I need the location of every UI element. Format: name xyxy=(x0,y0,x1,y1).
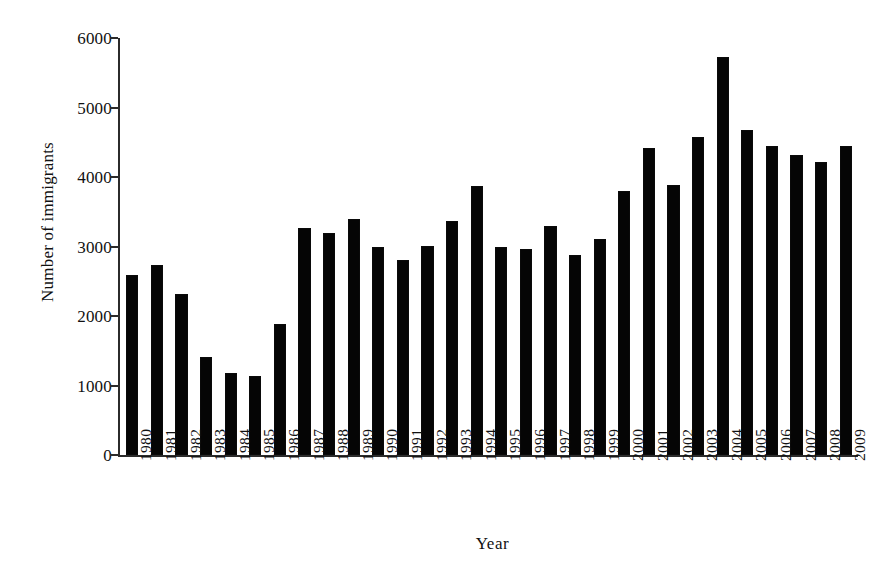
x-axis-tick-label: 1990 xyxy=(384,429,400,461)
x-axis-tick-label: 1982 xyxy=(188,429,204,461)
x-axis-tick-label: 1985 xyxy=(261,429,277,461)
bar xyxy=(569,255,581,455)
bar xyxy=(544,226,556,455)
x-axis-tick-label: 1981 xyxy=(163,429,179,461)
x-axis-tick-label: 1999 xyxy=(606,429,622,461)
x-axis-tick-label: 1993 xyxy=(458,429,474,461)
x-axis-tick-label: 1992 xyxy=(434,429,450,461)
bar xyxy=(471,186,483,455)
x-axis-tick-label: 1998 xyxy=(581,429,597,461)
bar-chart-figure: Number of immigrants 0100020003000400050… xyxy=(0,0,879,579)
x-axis-tick-label: 1980 xyxy=(138,429,154,461)
bar xyxy=(741,130,753,455)
x-axis-tick-label: 2001 xyxy=(655,429,671,461)
bar xyxy=(323,233,335,455)
x-axis-tick-label: 1995 xyxy=(507,429,523,461)
bar xyxy=(643,148,655,455)
x-axis-tick-label: 2007 xyxy=(803,429,819,461)
bar xyxy=(298,228,310,455)
x-axis-tick-label: 1996 xyxy=(532,429,548,461)
bar xyxy=(594,239,606,455)
x-axis-tick-label: 2005 xyxy=(753,429,769,461)
y-axis-tick-label: 5000 xyxy=(40,99,112,116)
bar xyxy=(348,219,360,455)
y-axis-tick-mark xyxy=(110,107,118,109)
bar xyxy=(520,249,532,455)
bar xyxy=(790,155,802,455)
y-axis-tick-mark xyxy=(110,385,118,387)
x-axis-tick-label: 2006 xyxy=(778,429,794,461)
bar xyxy=(151,265,163,455)
x-axis-tick-label: 2004 xyxy=(729,429,745,461)
bar-series xyxy=(120,38,858,455)
x-axis-title: Year xyxy=(0,534,879,554)
y-axis-tick-mark xyxy=(110,315,118,317)
y-axis-tick-label: 1000 xyxy=(40,377,112,394)
bar xyxy=(446,221,458,455)
x-axis-tick-label: 1983 xyxy=(212,429,228,461)
y-axis-tick-label: 0 xyxy=(40,447,112,464)
bar xyxy=(840,146,852,455)
x-axis-tick-label: 1989 xyxy=(360,429,376,461)
bar xyxy=(618,191,630,455)
bar xyxy=(126,275,138,455)
y-axis-tick-label: 2000 xyxy=(40,308,112,325)
bar xyxy=(815,162,827,455)
bar xyxy=(717,57,729,455)
y-axis-tick-label: 6000 xyxy=(40,30,112,47)
bar xyxy=(766,146,778,455)
plot-area xyxy=(118,38,858,455)
bar xyxy=(372,247,384,455)
x-axis-tick-label: 1984 xyxy=(237,429,253,461)
y-axis-tick-labels: 0100020003000400050006000 xyxy=(40,0,112,579)
bar xyxy=(421,246,433,455)
x-axis-tick-label: 2009 xyxy=(852,429,868,461)
bar xyxy=(667,185,679,455)
x-axis-tick-label: 2002 xyxy=(680,429,696,461)
y-axis-tick-mark xyxy=(110,176,118,178)
x-axis-tick-labels: 1980198119821983198419851986198719881989… xyxy=(120,455,858,535)
x-axis-tick-label: 1986 xyxy=(286,429,302,461)
bar xyxy=(397,260,409,455)
x-axis-tick-label: 1991 xyxy=(409,429,425,461)
x-axis-tick-label: 1988 xyxy=(335,429,351,461)
y-axis-tick-label: 4000 xyxy=(40,169,112,186)
y-axis-tick-mark xyxy=(110,37,118,39)
y-axis-tick-label: 3000 xyxy=(40,238,112,255)
x-axis-tick-label: 2000 xyxy=(630,429,646,461)
bar xyxy=(692,137,704,455)
x-axis-tick-label: 1994 xyxy=(483,429,499,461)
y-axis-tick-mark xyxy=(110,246,118,248)
x-axis-tick-label: 1997 xyxy=(557,429,573,461)
x-axis-tick-label: 2008 xyxy=(827,429,843,461)
x-axis-tick-label: 2003 xyxy=(704,429,720,461)
y-axis-tick-mark xyxy=(110,454,118,456)
x-axis-tick-label: 1987 xyxy=(311,429,327,461)
bar xyxy=(495,247,507,456)
